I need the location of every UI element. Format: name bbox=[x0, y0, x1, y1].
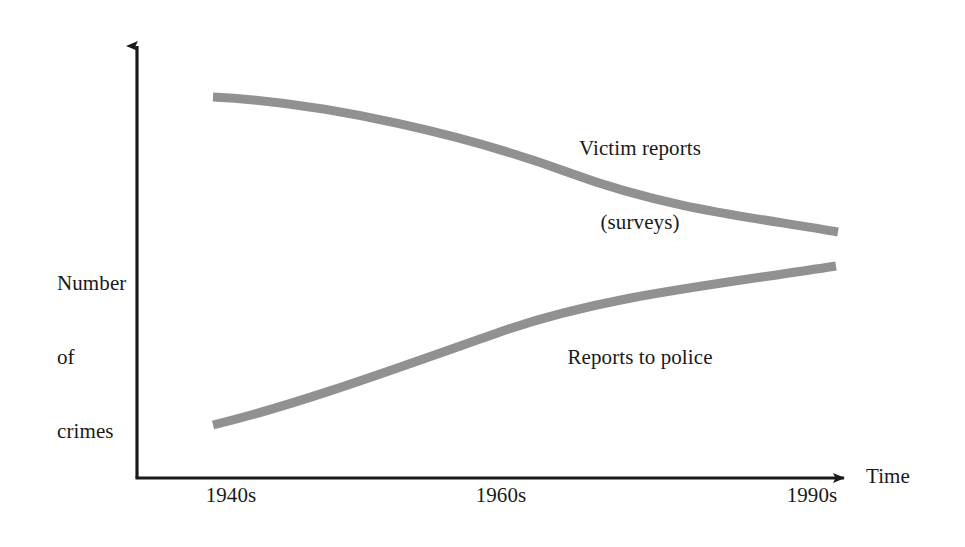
chart-figure: Number of crimes Time 1940s 1960s 1990s … bbox=[0, 0, 965, 547]
series-group bbox=[213, 97, 838, 425]
y-axis-title-line-3: crimes bbox=[57, 419, 126, 444]
series-label-reports-to-police: Reports to police bbox=[567, 345, 712, 370]
series-line-victim-reports bbox=[213, 97, 838, 232]
series-label-victim-reports: Victim reports (surveys) bbox=[579, 86, 701, 284]
chart-canvas bbox=[0, 0, 965, 547]
series-label-victim-reports-line-1: Victim reports bbox=[579, 136, 701, 161]
x-axis-title: Time bbox=[866, 464, 910, 489]
y-axis-title: Number of crimes bbox=[57, 221, 126, 493]
y-axis-title-line-2: of bbox=[57, 345, 126, 370]
x-tick-label-1940s: 1940s bbox=[206, 483, 257, 508]
y-axis-title-line-1: Number bbox=[57, 271, 126, 296]
x-tick-label-1960s: 1960s bbox=[476, 483, 527, 508]
series-line-reports-to-police bbox=[213, 266, 836, 425]
series-label-victim-reports-line-2: (surveys) bbox=[579, 210, 701, 235]
x-tick-label-1990s: 1990s bbox=[787, 483, 838, 508]
